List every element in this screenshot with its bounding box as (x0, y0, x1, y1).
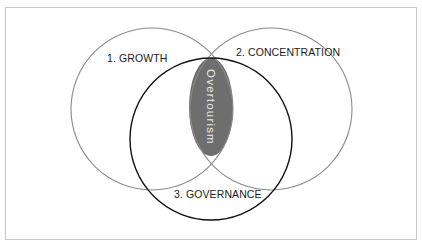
overtourism-label: Overtourism (205, 69, 217, 145)
governance-label: 3. GOVERNANCE (174, 188, 262, 200)
growth-label: 1. GROWTH (107, 52, 167, 64)
concentration-label: 2. CONCENTRATION (236, 46, 340, 58)
venn-diagram: Overtourism (0, 0, 422, 246)
